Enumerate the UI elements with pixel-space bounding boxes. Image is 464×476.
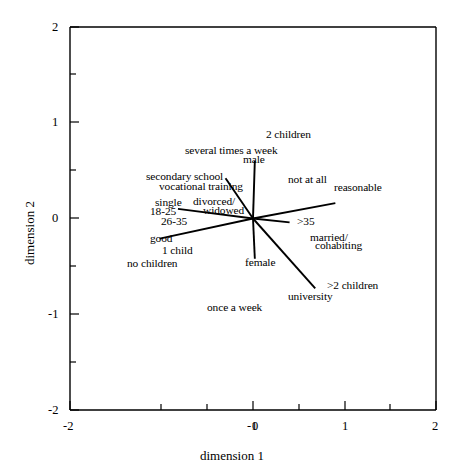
point-label-2-children: 2 children: [266, 129, 311, 141]
y-axis-title: dimension 2: [22, 201, 38, 265]
point-label-not-at-all: not at all: [288, 174, 327, 186]
vector-ray-female: [253, 219, 255, 259]
y-tick-label--1: -1: [48, 308, 58, 321]
point-label-male: male: [243, 154, 265, 166]
point-label-gt2-children: >2 children: [327, 280, 378, 292]
y-tick-label--2: -2: [48, 404, 58, 417]
x-tick-label-0: 0: [252, 420, 258, 433]
vector-ray-reasonable: [253, 203, 335, 218]
point-label-vocational: vocational training: [159, 181, 243, 193]
point-label-widowed: widowed: [203, 205, 244, 217]
point-label-university: university: [288, 291, 333, 303]
point-label-over-35: >35: [297, 216, 315, 228]
point-label-once-a-week: once a week: [207, 302, 262, 314]
vector-ray-35: [253, 219, 290, 223]
point-label-1-child: 1 child: [162, 245, 193, 257]
y-tick-label-0: 0: [52, 212, 58, 225]
point-label-no-children: no children: [127, 258, 177, 270]
x-axis-title: dimension 1: [200, 448, 264, 464]
point-label-reasonable: reasonable: [334, 182, 382, 194]
x-tick-label-2: 2: [432, 420, 438, 433]
y-ticks: [70, 27, 79, 410]
x-tick-label--2: -2: [63, 420, 73, 433]
vector-ray-2-children: [253, 219, 315, 289]
biplot-figure: 2 1 0 -1 -2 -2 -1 0 1 2 dimension 1 dime…: [0, 0, 464, 476]
x-ticks: [70, 401, 436, 410]
point-label-cohabiting: cohabiting: [315, 240, 362, 252]
point-label-female: female: [245, 257, 275, 269]
y-tick-label-1: 1: [52, 116, 58, 129]
plot-canvas: [0, 0, 464, 476]
y-tick-label-2: 2: [52, 21, 58, 34]
point-label-26-35: 26-35: [161, 216, 187, 228]
point-label-good: good: [150, 233, 172, 245]
vector-ray-male: [253, 161, 255, 218]
x-tick-label-1: 1: [342, 420, 348, 433]
